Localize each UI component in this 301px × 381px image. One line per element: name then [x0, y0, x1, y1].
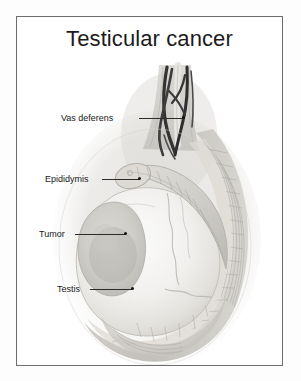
illustration-root: Testicular cancer — [0, 0, 301, 381]
leader-line-epididymis — [102, 179, 139, 180]
leader-dot-vas-deferens — [182, 116, 185, 119]
leader-dot-testis — [131, 287, 134, 290]
label-vas-deferens: Vas deferens — [61, 113, 113, 123]
leader-line-vas-deferens — [139, 118, 183, 119]
label-epididymis: Epididymis — [45, 174, 89, 184]
leader-line-tumor — [75, 234, 125, 235]
label-testis: Testis — [57, 284, 80, 294]
figure-frame: Testicular cancer — [16, 16, 283, 366]
leader-dot-tumor — [124, 232, 127, 235]
anatomy-illustration — [17, 17, 282, 365]
tumor-nodule — [92, 224, 118, 254]
label-tumor: Tumor — [39, 229, 65, 239]
leader-line-testis — [90, 289, 132, 290]
leader-dot-epididymis — [138, 177, 141, 180]
